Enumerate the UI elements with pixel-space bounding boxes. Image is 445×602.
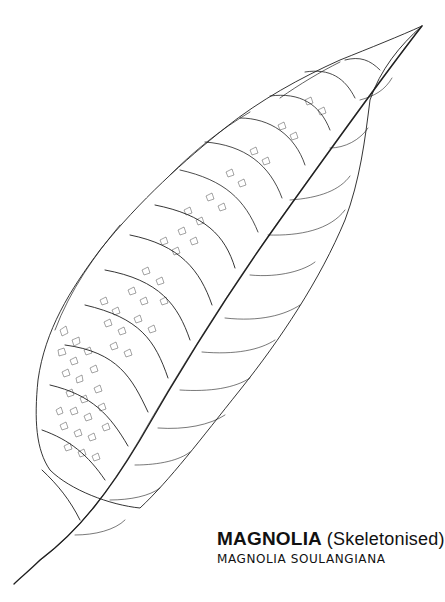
title-main: MAGNOLIA: [217, 528, 321, 549]
plant-common-name: MAGNOLIA (Skeletonised): [217, 528, 445, 550]
midrib: [14, 26, 422, 584]
title-qualifier: (Skeletonised): [327, 529, 445, 549]
plant-scientific-name: MAGNOLIA SOULANGIANA: [217, 552, 445, 566]
caption: MAGNOLIA (Skeletonised) MAGNOLIA SOULANG…: [217, 528, 445, 566]
leaf-outline: [36, 26, 422, 508]
